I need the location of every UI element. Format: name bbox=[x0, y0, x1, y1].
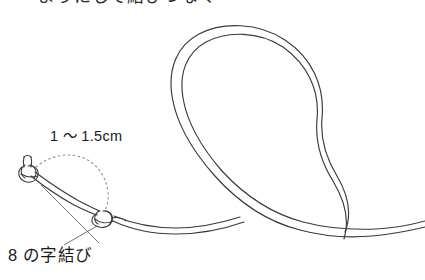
end-knot bbox=[19, 165, 38, 182]
cord-left-outer-edge bbox=[31, 176, 97, 215]
figure-eight-knot-cross-strand bbox=[95, 219, 113, 223]
knot-name-label: 8 の字結び bbox=[8, 247, 93, 264]
cord-left-inner-edge bbox=[35, 172, 100, 211]
cord-end-cap bbox=[24, 156, 31, 158]
leader-line-left bbox=[41, 185, 99, 243]
cord-left-section bbox=[23, 156, 244, 235]
figure-eight-knot-loop-b bbox=[95, 211, 99, 224]
measurement-label: 1 〜 1.5cm bbox=[50, 129, 122, 144]
cord-loop-group bbox=[171, 26, 425, 239]
figure-heading: ようにして結びつなぐ bbox=[38, 0, 217, 5]
figure-canvas: ようにして結びつなぐ 1 〜 1.5cm 8 の字結び bbox=[0, 0, 425, 280]
cord-loop-inner-edge bbox=[182, 34, 425, 239]
figure-eight-knot-tail bbox=[112, 218, 126, 221]
cord-loop-outer-edge bbox=[171, 26, 425, 237]
cord-mid-inner-edge bbox=[114, 216, 240, 228]
